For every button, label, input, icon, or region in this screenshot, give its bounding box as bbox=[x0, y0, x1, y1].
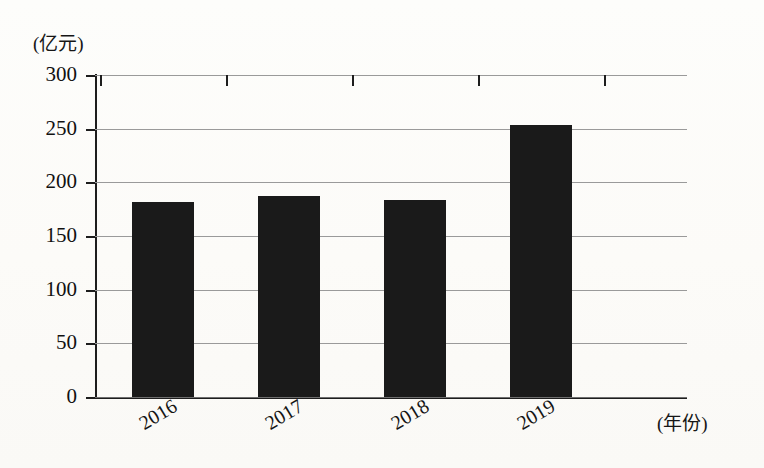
y-axis-unit-label: (亿元) bbox=[33, 28, 84, 55]
bar[interactable] bbox=[258, 196, 320, 397]
y-tick-label: 0 bbox=[19, 386, 77, 407]
x-tick-mark bbox=[604, 75, 606, 86]
y-tick-mark bbox=[86, 129, 95, 131]
y-tick-mark bbox=[86, 397, 95, 399]
y-tick-mark bbox=[86, 75, 95, 77]
gridline bbox=[95, 397, 687, 398]
y-tick-label: 150 bbox=[19, 225, 77, 246]
gridline bbox=[95, 182, 687, 183]
bar[interactable] bbox=[510, 125, 572, 397]
y-tick-label: 250 bbox=[19, 118, 77, 139]
x-tick-mark bbox=[226, 75, 228, 86]
y-tick-label: 200 bbox=[19, 171, 77, 192]
plot-area: 050100150200250300 2016201720182019 bbox=[95, 75, 687, 397]
y-tick-mark bbox=[86, 343, 95, 345]
bar[interactable] bbox=[384, 200, 446, 397]
y-tick-mark bbox=[86, 236, 95, 238]
y-tick-mark bbox=[86, 182, 95, 184]
y-tick-label: 50 bbox=[19, 332, 77, 353]
y-tick-label: 100 bbox=[19, 279, 77, 300]
gridline bbox=[95, 75, 687, 76]
x-tick-mark bbox=[100, 75, 102, 86]
bar[interactable] bbox=[132, 202, 194, 397]
chart-canvas: (亿元) (年份) 050100150200250300 20162017201… bbox=[0, 0, 764, 468]
y-tick-mark bbox=[86, 290, 95, 292]
gridline bbox=[95, 129, 687, 130]
x-tick-mark bbox=[352, 75, 354, 86]
y-tick-label: 300 bbox=[19, 64, 77, 85]
x-tick-mark bbox=[478, 75, 480, 86]
x-axis-unit-label: (年份) bbox=[657, 408, 708, 435]
